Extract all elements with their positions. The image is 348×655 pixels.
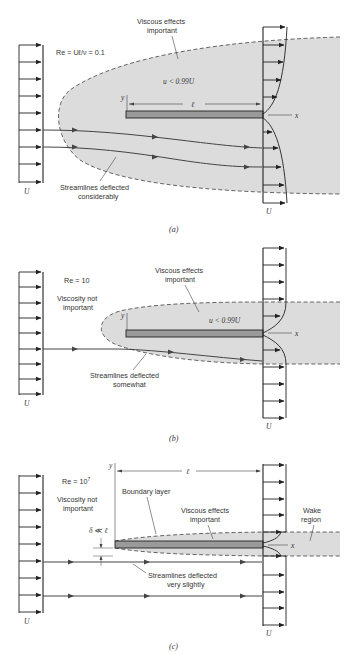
upstream-profile-b bbox=[19, 272, 43, 395]
wake-label-c-2: region bbox=[301, 515, 321, 524]
reynolds-label-a: Re = Uℓ/ν = 0.1 bbox=[56, 48, 105, 57]
viscous-label-a-2: important bbox=[147, 26, 177, 35]
streamline-label-c-1: Streamlines deflected bbox=[148, 571, 217, 580]
viscous-label-c-1: Viscous effects bbox=[181, 506, 229, 515]
downstream-velocity-c: U bbox=[266, 629, 272, 638]
reynolds-base-c: Re = 10 bbox=[62, 477, 87, 486]
upstream-profile-a bbox=[19, 45, 43, 183]
upstream-profile-c bbox=[19, 475, 43, 613]
streamline-label-b-2: somewhat bbox=[113, 380, 146, 389]
inviscid-label-b-2: important bbox=[63, 303, 93, 312]
streamline-label-a-1: Streamlines deflected bbox=[60, 183, 129, 192]
y-axis-label-c: y bbox=[108, 461, 113, 470]
boundary-layer-label-c: Boundary layer bbox=[122, 487, 171, 496]
flat-plate-a bbox=[126, 111, 263, 118]
streamline-label-c-2: very slightly bbox=[167, 580, 205, 589]
panel-b: U y x U Re = 10 Viscosity not impor bbox=[19, 248, 340, 443]
reynolds-label-c: Re = 107 bbox=[62, 476, 90, 486]
flat-plate-b bbox=[126, 330, 263, 337]
velocity-condition-b: u < 0.99U bbox=[209, 316, 241, 325]
x-axis-label-c: x bbox=[290, 541, 295, 550]
streamline-label-a-2: considerably bbox=[78, 192, 119, 201]
downstream-velocity-b: U bbox=[266, 422, 272, 431]
inviscid-label-b-1: Viscosity not bbox=[57, 294, 97, 303]
caption-b: (b) bbox=[169, 434, 179, 443]
panel-a: U y ℓ x bbox=[19, 17, 340, 234]
viscous-label-a-1: Viscous effects bbox=[137, 17, 185, 26]
downstream-velocity-a: U bbox=[266, 207, 272, 216]
inviscid-label-c-2: important bbox=[63, 504, 93, 513]
panel-c: U y ℓ δ ≪ ℓ x bbox=[19, 461, 340, 651]
y-axis-label-b: y bbox=[120, 311, 125, 320]
viscous-label-c-2: important bbox=[190, 515, 220, 524]
x-axis-label-a: x bbox=[294, 111, 299, 120]
caption-a: (a) bbox=[169, 225, 179, 234]
flat-plate-c bbox=[115, 541, 263, 548]
upstream-velocity-c: U bbox=[24, 617, 30, 626]
viscous-label-b-1: Viscous effects bbox=[155, 266, 203, 275]
thickness-label-c: δ ≪ ℓ bbox=[89, 526, 108, 535]
wake-label-c-1: Wake bbox=[303, 506, 321, 515]
velocity-condition-a: u < 0.99U bbox=[163, 77, 195, 86]
y-axis-label-a: y bbox=[120, 93, 125, 102]
inviscid-label-c-1: Viscosity not bbox=[57, 495, 97, 504]
flat-plate-flow-figure: U y ℓ x bbox=[0, 0, 348, 655]
streamline-label-b-1: Streamlines deflected bbox=[90, 371, 159, 380]
x-axis-label-b: x bbox=[294, 329, 299, 338]
reynolds-label-b: Re = 10 bbox=[64, 276, 89, 285]
upstream-velocity-a: U bbox=[24, 187, 30, 196]
length-label-c: ℓ bbox=[186, 467, 190, 476]
reynolds-exponent-c: 7 bbox=[87, 476, 90, 482]
caption-c: (c) bbox=[169, 642, 178, 651]
upstream-velocity-b: U bbox=[24, 399, 30, 408]
viscous-label-b-2: important bbox=[165, 275, 195, 284]
